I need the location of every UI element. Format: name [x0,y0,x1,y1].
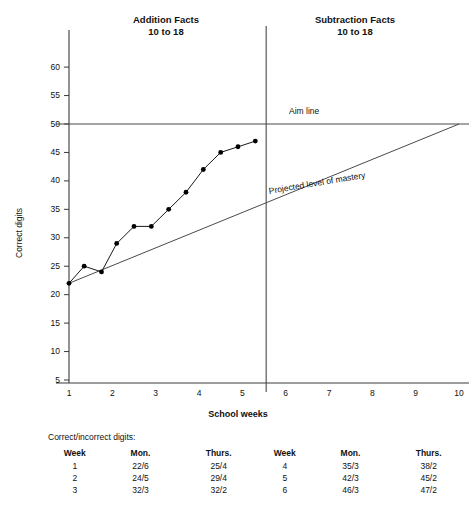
data-table: WeekMon.Thurs.WeekMon.Thurs. 122/625/443… [48,447,468,496]
y-axis-title: Correct digits [14,208,24,258]
data-point [99,270,104,275]
x-tick-label-4: 4 [191,389,207,398]
data-point [82,264,87,269]
y-tick-label-20: 20 [38,290,60,299]
table-cell: 32/2 [179,484,258,496]
data-point [201,167,206,172]
table-cell: 46/3 [312,484,390,496]
table-header-cell: Week [48,447,102,460]
table-cell: 6 [258,484,312,496]
data-point [114,241,119,246]
data-point [184,190,189,195]
table-cell: 4 [258,460,312,472]
table-cell: 24/5 [102,472,180,484]
y-tick-label-5: 5 [38,376,60,385]
data-point [218,150,223,155]
x-tick-label-5: 5 [234,389,250,398]
table-cell: 3 [48,484,102,496]
table-cell: 25/4 [179,460,258,472]
data-point [67,281,72,286]
x-tick-label-8: 8 [364,389,380,398]
y-tick-label-60: 60 [38,63,60,72]
table-cell: 32/3 [102,484,180,496]
y-tick-label-30: 30 [38,233,60,242]
table-cell: 2 [48,472,102,484]
x-axis-title: School weeks [0,409,476,419]
x-tick-label-7: 7 [321,389,337,398]
y-tick-label-45: 45 [38,148,60,157]
x-tick-label-6: 6 [278,389,294,398]
x-tick-label-1: 1 [61,389,77,398]
table-body: 122/625/4435/338/2224/529/4542/345/2332/… [48,460,468,496]
y-tick-label-50: 50 [38,120,60,129]
chart-page: Addition Facts 10 to 18 Subtraction Fact… [0,0,476,508]
x-tick-label-10: 10 [451,389,467,398]
data-series-line [69,141,255,283]
x-tick-label-9: 9 [408,389,424,398]
table-header-cell: Week [258,447,312,460]
data-table-caption: Correct/incorrect digits: [48,432,476,442]
table-header-cell: Thurs. [389,447,468,460]
y-tick-label-15: 15 [38,319,60,328]
data-point-markers [67,139,258,286]
table-cell: 29/4 [179,472,258,484]
y-tick-label-55: 55 [38,91,60,100]
table-header-row: WeekMon.Thurs.WeekMon.Thurs. [48,447,468,460]
data-point [253,139,258,144]
data-point [132,224,137,229]
table-header-cell: Mon. [312,447,390,460]
table-cell: 35/3 [312,460,390,472]
data-table-section: Correct/incorrect digits: WeekMon.Thurs.… [0,432,476,496]
data-point [149,224,154,229]
table-cell: 22/6 [102,460,180,472]
table-cell: 5 [258,472,312,484]
table-header-cell: Thurs. [179,447,258,460]
table-cell: 47/2 [389,484,468,496]
y-tick-label-40: 40 [38,176,60,185]
table-row: 224/529/4542/345/2 [48,472,468,484]
table-cell: 42/3 [312,472,390,484]
aim-line-label: Aim line [289,106,319,116]
data-point [166,207,171,212]
data-point [236,144,241,149]
table-row: 122/625/4435/338/2 [48,460,468,472]
table-header-cell: Mon. [102,447,180,460]
y-tick-label-35: 35 [38,205,60,214]
x-tick-label-3: 3 [148,389,164,398]
x-tick-label-2: 2 [104,389,120,398]
table-row: 332/332/2646/347/2 [48,484,468,496]
table-cell: 38/2 [389,460,468,472]
y-tick-label-25: 25 [38,262,60,271]
y-tick-label-10: 10 [38,347,60,356]
table-cell: 1 [48,460,102,472]
axis-tick-marks [64,67,69,380]
projected-mastery-line [69,124,459,283]
table-cell: 45/2 [389,472,468,484]
